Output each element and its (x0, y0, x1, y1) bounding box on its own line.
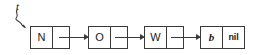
node-data-cell: N (31, 27, 52, 48)
node-data-cell: O (89, 27, 110, 48)
linked-list-diagram: t N O W b nil (0, 0, 253, 55)
node-data-cell: b (201, 27, 222, 48)
list-node-tail: b nil (200, 26, 245, 49)
node-data-cell: W (145, 27, 166, 48)
link-arrow (115, 37, 144, 38)
link-arrow (171, 37, 200, 38)
link-arrow (59, 37, 88, 38)
node-nil-link-cell: nil (222, 27, 244, 48)
